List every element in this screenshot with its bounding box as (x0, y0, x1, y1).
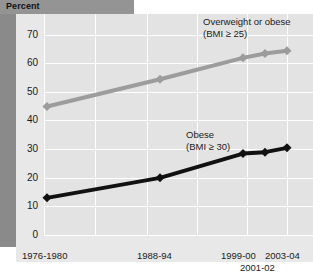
line-overweight-or-obese (47, 51, 287, 107)
data-point-marker (283, 143, 292, 152)
data-point-marker (156, 75, 165, 84)
data-point-marker (43, 193, 52, 202)
line-obese (47, 148, 287, 198)
data-point-marker (261, 148, 270, 157)
data-point-marker (239, 149, 248, 158)
data-point-marker (43, 102, 52, 111)
data-point-marker (283, 46, 292, 55)
data-point-marker (239, 53, 248, 62)
data-point-marker (156, 173, 165, 182)
data-point-marker (261, 49, 270, 58)
percent-overweight-obese-chart: Percent 70 60 50 40 30 20 10 0 1976-1980… (0, 0, 313, 276)
series-layer (0, 0, 313, 276)
